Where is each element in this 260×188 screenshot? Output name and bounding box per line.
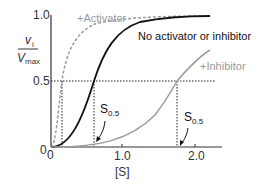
svg-text:0.5: 0.5 bbox=[108, 109, 120, 118]
x-tick-label-1: 1.0 bbox=[114, 149, 131, 163]
svg-text:0.5: 0.5 bbox=[192, 117, 204, 126]
y-tick-label-05: 0.5 bbox=[33, 74, 50, 88]
arrow-icon bbox=[96, 136, 101, 142]
x-axis-label: [S] bbox=[115, 165, 130, 179]
inhibitor-label: +Inhibitor bbox=[200, 60, 246, 72]
svg-text:max: max bbox=[25, 57, 40, 66]
svg-text:S: S bbox=[184, 110, 192, 124]
y-tick-label-1: 1.0 bbox=[33, 8, 50, 22]
svg-text:v: v bbox=[25, 33, 32, 47]
s05-annotation-inhibitor: S 0.5 bbox=[180, 110, 204, 146]
normal-label: No activator or inhibitor bbox=[138, 30, 251, 42]
x-tick-label-2: 2.0 bbox=[188, 149, 205, 163]
x-tick-label-0: 0 bbox=[47, 148, 54, 162]
y-axis-label: v i V max bbox=[17, 33, 40, 66]
activator-label: +Activator bbox=[77, 12, 127, 24]
svg-text:S: S bbox=[100, 102, 108, 116]
s05-annotation-normal: S 0.5 bbox=[96, 102, 120, 142]
svg-text:i: i bbox=[32, 40, 34, 49]
chart: 1.0 0.5 0 0 1.0 2.0 [S] v i V max +Activ… bbox=[0, 0, 260, 188]
y-tick-label-0: 0 bbox=[40, 143, 47, 157]
inhibitor-curve bbox=[51, 50, 210, 147]
